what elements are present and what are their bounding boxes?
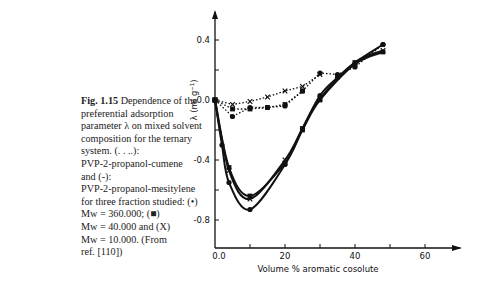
x-marker-icon	[265, 95, 270, 100]
x-tick-label: 0.0	[212, 251, 226, 261]
series-dotted-x	[213, 72, 323, 107]
x-marker-icon	[248, 99, 253, 104]
series-dotted-square	[213, 89, 305, 112]
x-tick-label: 20	[280, 251, 291, 261]
square-marker-icon	[248, 107, 253, 112]
circle-marker-icon	[247, 207, 252, 212]
chart-series	[212, 42, 385, 212]
square-marker-icon	[283, 102, 288, 107]
square-marker-icon	[300, 89, 305, 94]
circle-marker-icon	[226, 180, 231, 185]
y-axis-label: λ (ml g⁻¹)	[189, 80, 199, 121]
series-solid-x	[213, 48, 386, 201]
chart-axes: 0.40.0-0.4-0.80.0204060	[193, 10, 462, 261]
circle-marker-icon	[230, 114, 235, 119]
chart: 0.40.0-0.4-0.80.0204060 Volume % aromati…	[0, 0, 483, 297]
x-marker-icon	[230, 102, 235, 107]
square-marker-icon	[265, 105, 270, 110]
y-tick-label: -0.4	[193, 155, 210, 165]
x-tick-label: 40	[350, 251, 361, 261]
series-solid-square	[213, 50, 386, 199]
square-marker-icon	[230, 107, 235, 112]
series-dotted-circle	[212, 42, 385, 119]
x-tick-label: 60	[420, 251, 431, 261]
y-tick-label: 0.4	[196, 35, 210, 45]
circle-marker-icon	[380, 42, 385, 47]
y-tick-label: -0.8	[193, 215, 210, 225]
x-axis-label: Volume % aromatic cosolute	[257, 264, 378, 274]
